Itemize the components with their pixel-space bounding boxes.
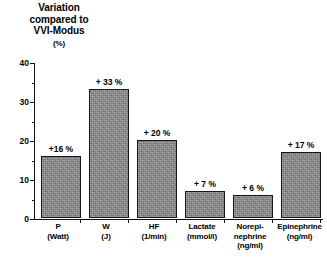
chart-title-line-3: VVI-Modus (4, 25, 114, 37)
y-minor-tick-15 (32, 161, 34, 162)
bar-value-hf: + 20 % (144, 129, 171, 138)
y-tick-label-30: 30 (20, 98, 29, 107)
chart-title: Variation compared to VVI-Modus (%) (4, 2, 114, 49)
x-category-w: W (J) (82, 222, 130, 241)
x-category-lactate: Lactate (mmol/l) (178, 222, 226, 241)
y-tick-label-20: 20 (20, 137, 29, 146)
x-category-epinephrine: Epinephrine (ng/ml) (272, 222, 327, 241)
bar-epinephrine[interactable]: + 17 % (281, 152, 321, 218)
x-category-norepinephrine-units: (ng/ml) (226, 241, 274, 251)
x-category-p-units: (Watt) (34, 232, 82, 242)
chart-title-line-2: compared to (4, 14, 114, 26)
chart-title-line-1: Variation (4, 2, 114, 14)
bar-w[interactable]: + 33 % (89, 89, 129, 218)
y-minor-tick-25 (32, 122, 34, 123)
bar-value-w: + 33 % (96, 78, 123, 87)
bar-p[interactable]: +16 % (41, 156, 81, 218)
x-category-epinephrine-name: Epinephrine (272, 222, 327, 232)
x-category-lactate-units: (mmol/l) (178, 232, 226, 242)
y-minor-tick-35 (32, 83, 34, 84)
bar-value-epinephrine: + 17 % (288, 141, 315, 150)
y-tick-label-40: 40 (20, 59, 29, 68)
x-axis-line (34, 219, 323, 220)
x-category-hf-name: HF (130, 222, 178, 232)
bar-lactate[interactable]: + 7 % (185, 191, 225, 218)
x-category-epinephrine-units: (ng/ml) (272, 232, 327, 242)
x-category-norepinephrine-name2: nephrine (226, 232, 274, 242)
x-category-w-name: W (82, 222, 130, 232)
y-tick-label-10: 10 (20, 176, 29, 185)
chart-title-unit: (%) (4, 38, 114, 50)
y-axis-line (34, 63, 35, 220)
x-category-norepinephrine: Norepi- nephrine (ng/ml) (226, 222, 274, 251)
bar-value-norepinephrine: + 6 % (242, 184, 264, 193)
plot-area: 40 30 20 10 0 +16 % (34, 63, 323, 219)
bar-norepinephrine[interactable]: + 6 % (233, 195, 273, 218)
bar-hf[interactable]: + 20 % (137, 140, 177, 218)
y-tick-label-0: 0 (24, 215, 29, 224)
x-category-hf: HF (1/min) (130, 222, 178, 241)
bar-value-lactate: + 7 % (194, 180, 216, 189)
x-category-p-name: P (34, 222, 82, 232)
x-category-w-units: (J) (82, 232, 130, 242)
bar-value-p: +16 % (49, 145, 73, 154)
x-category-norepinephrine-name: Norepi- (226, 222, 274, 232)
bar-chart: Variation compared to VVI-Modus (%) 40 3… (0, 0, 327, 257)
x-category-lactate-name: Lactate (178, 222, 226, 232)
x-category-p: P (Watt) (34, 222, 82, 241)
x-category-hf-units: (1/min) (130, 232, 178, 242)
y-minor-tick-5 (32, 200, 34, 201)
